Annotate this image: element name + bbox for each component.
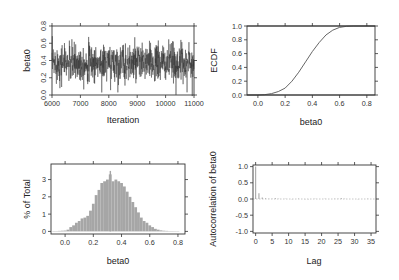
x-tick-label: 0.4 — [117, 238, 127, 247]
ecdf-plot-frame — [247, 26, 375, 95]
x-tick-label: 0.8 — [362, 99, 372, 108]
x-tick-label: 0.0 — [60, 238, 70, 247]
histogram-bar — [89, 211, 92, 232]
y-tick-label: 0.0 — [39, 90, 48, 100]
y-tick-label: 0.0 — [232, 91, 242, 100]
histogram-bar — [157, 230, 160, 232]
histogram-bar — [129, 197, 132, 232]
y-tick-label: 0 — [42, 227, 46, 236]
x-tick-label: 10000 — [156, 99, 176, 108]
ecdf-curve-group — [247, 26, 375, 95]
y-tick-label: 0.6 — [232, 49, 242, 58]
y-tick-label: 1.0 — [238, 162, 248, 171]
histogram-bar — [146, 223, 149, 232]
histogram-bar — [160, 230, 163, 231]
histogram-xlabel: beta0 — [107, 256, 130, 266]
histogram-bar — [86, 216, 89, 232]
histogram-bar — [103, 181, 106, 231]
x-tick-label: 0.2 — [280, 99, 290, 108]
histogram-bar — [137, 212, 140, 231]
x-tick-label: 11000 — [184, 99, 203, 108]
ecdf-xlabel: beta0 — [300, 117, 323, 127]
histogram-bars — [52, 171, 179, 232]
histogram-bar — [72, 225, 75, 231]
histogram-bar — [126, 192, 129, 232]
y-tick-label: 0.6 — [39, 38, 48, 48]
mcmc-diagnostics-figure: 600070008000900010000110000.00.20.40.60.… — [0, 0, 399, 280]
histogram-bar — [120, 183, 123, 231]
histogram-bar — [140, 218, 143, 232]
acf-ylabel: Autocorrelation of beta0 — [208, 151, 218, 247]
histogram-bar — [100, 183, 103, 231]
x-tick-label: 8000 — [101, 99, 117, 108]
x-tick-label: 0.6 — [145, 238, 155, 247]
trace-panel: 600070008000900010000110000.00.20.40.60.… — [22, 21, 204, 125]
x-tick-label: 5 — [270, 237, 274, 246]
histogram-bar — [61, 231, 64, 232]
x-tick-label: 30 — [351, 237, 359, 246]
y-tick-label: 0.2 — [232, 77, 242, 86]
y-tick-label: 0.2 — [39, 73, 48, 83]
trace-lines — [52, 36, 194, 96]
histogram-bar — [95, 195, 98, 231]
histogram-bar — [98, 190, 101, 231]
trace-line — [52, 36, 194, 96]
histogram-bar — [131, 202, 134, 231]
x-tick-label: 25 — [334, 237, 342, 246]
x-tick-label: 20 — [318, 237, 326, 246]
trace-xlabel: Iteration — [107, 115, 140, 125]
y-tick-label: 0.0 — [238, 195, 248, 204]
y-tick-label: 0.4 — [39, 56, 48, 66]
histogram-bar — [81, 218, 84, 231]
y-tick-label: 0.5 — [238, 178, 248, 187]
histogram-bar — [117, 181, 120, 231]
histogram-bar — [112, 181, 115, 231]
ecdf-curve — [247, 26, 375, 95]
histogram-bar — [78, 221, 81, 231]
histogram-bar — [123, 186, 126, 231]
y-tick-label: 0.8 — [39, 21, 48, 31]
histogram-bar — [162, 231, 165, 232]
x-tick-label: 0.4 — [307, 99, 317, 108]
x-tick-label: 7000 — [72, 99, 88, 108]
x-tick-label: 0.2 — [88, 238, 98, 247]
histogram-bar — [92, 204, 95, 232]
histogram-ylabel: % of Total — [22, 179, 32, 218]
histogram-bar — [64, 231, 67, 232]
x-tick-label: 0 — [254, 237, 258, 246]
x-tick-label: 9000 — [129, 99, 145, 108]
y-tick-label: 3 — [42, 175, 46, 184]
y-tick-label: 0.4 — [232, 63, 242, 72]
histogram-bar — [69, 227, 72, 231]
x-tick-label: 35 — [367, 237, 375, 246]
histogram-peak-bar — [110, 171, 111, 231]
y-tick-label: -1.0 — [236, 227, 248, 236]
histogram-bar — [134, 207, 137, 231]
histogram-bar — [154, 229, 157, 232]
histogram-bar — [67, 230, 70, 232]
histogram-bar — [143, 221, 146, 231]
histogram-panel: 0.00.20.40.60.80123 beta0 % of Total — [22, 161, 188, 266]
y-tick-label: 1 — [42, 210, 46, 219]
x-tick-label: 0.6 — [335, 99, 345, 108]
histogram-bar — [83, 218, 86, 232]
y-tick-label: 1.0 — [232, 22, 242, 31]
histogram-bar — [114, 180, 117, 232]
histogram-bar — [75, 223, 78, 232]
x-tick-label: 0.0 — [253, 99, 263, 108]
histogram-bar — [148, 225, 151, 231]
histogram-bar — [106, 180, 109, 232]
acf-panel: 05101520253035-1.0-0.50.00.51.0 Lag Auto… — [208, 151, 379, 266]
acf-bars — [253, 167, 376, 200]
acf-xlabel: Lag — [306, 256, 321, 266]
ecdf-panel: 0.00.20.40.60.80.00.20.40.60.81.0 beta0 … — [209, 22, 378, 128]
histogram-bar — [58, 231, 61, 232]
x-tick-label: 15 — [301, 237, 309, 246]
ecdf-ylabel: ECDF — [209, 48, 219, 73]
y-tick-label: -0.5 — [236, 211, 248, 220]
y-tick-label: 0.8 — [232, 35, 242, 44]
y-tick-label: 2 — [42, 192, 46, 201]
histogram-bar — [151, 227, 154, 231]
histogram-bar — [165, 231, 168, 232]
x-tick-label: 0.8 — [173, 238, 183, 247]
